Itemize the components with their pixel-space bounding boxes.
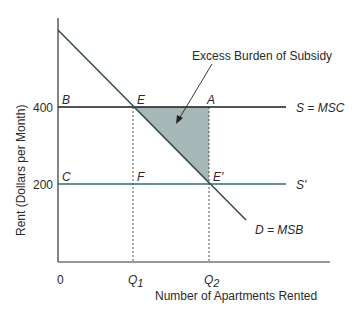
y-tick-400: 400 — [33, 101, 53, 115]
excess-burden-area — [133, 107, 209, 184]
point-e-label: E — [137, 93, 146, 107]
y-axis-title: Rent (Dollars per Month) — [14, 105, 28, 236]
curve-d-msb-label: D = MSB — [255, 223, 303, 237]
annotation-label: Excess Burden of Subsidy — [192, 49, 332, 63]
y-tick-200: 200 — [33, 178, 53, 192]
x-tick-origin: 0 — [57, 273, 64, 287]
x-axis-title: Number of Apartments Rented — [155, 289, 317, 303]
point-f-label: F — [137, 170, 145, 184]
point-b-label: B — [62, 93, 70, 107]
curve-s-prime-label: S' — [296, 178, 307, 192]
point-a-label: A — [206, 93, 215, 107]
x-tick-q2: Q2 — [204, 273, 219, 289]
subsidy-diagram: Excess Burden of Subsidy Rent (Dollars p… — [0, 0, 352, 311]
point-c-label: C — [62, 170, 71, 184]
x-tick-q1: Q1 — [128, 273, 143, 289]
curve-s-msc-label: S = MSC — [296, 101, 345, 115]
point-e-prime-label: E' — [213, 170, 224, 184]
